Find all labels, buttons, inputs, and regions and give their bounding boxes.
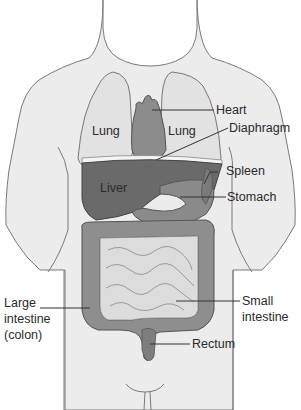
label-small-intestine-1: Small <box>242 294 273 308</box>
label-small-intestine-2: intestine <box>242 310 289 324</box>
small-intestine <box>100 236 198 320</box>
label-rectum: Rectum <box>192 337 235 351</box>
label-lung-left: Lung <box>92 124 120 138</box>
label-large-intestine-2: intestine <box>4 312 51 326</box>
label-large-intestine-1: Large <box>4 296 36 310</box>
anatomy-diagram: Lung Lung Liver Heart Diaphragm Spleen S… <box>0 0 301 410</box>
label-spleen: Spleen <box>226 164 265 178</box>
label-large-intestine-3: (colon) <box>4 328 42 342</box>
label-stomach: Stomach <box>227 190 276 204</box>
label-heart: Heart <box>216 103 247 117</box>
label-diaphragm: Diaphragm <box>229 121 290 135</box>
anatomy-illustration <box>0 0 301 410</box>
label-liver: Liver <box>100 181 127 195</box>
label-lung-right: Lung <box>168 124 196 138</box>
